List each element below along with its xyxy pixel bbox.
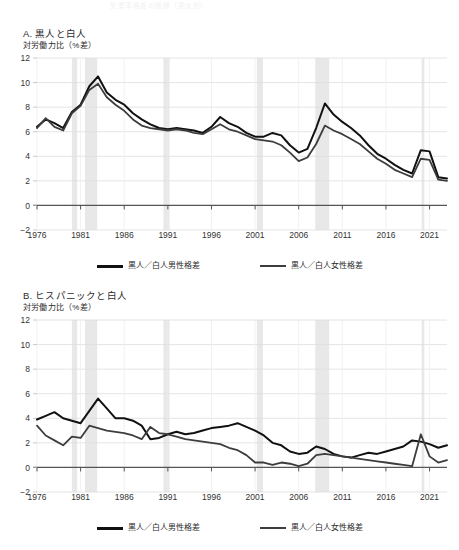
axis-label-y: 0 [25,463,30,473]
axis-label-y: 0 [25,201,30,211]
axis-label-y: 8 [25,364,30,374]
panel-b-svg: −202468101219761981198619911996200120062… [0,314,459,514]
axis-label-x: 2016 [376,492,395,502]
axis-label-x: 2011 [333,492,352,502]
axis-label-x: 1976 [28,492,47,502]
panel-a-svg: −202468101219761981198619911996200120062… [0,52,459,252]
axis-label-x: 1981 [71,492,90,502]
axis-label-x: 2006 [289,492,308,502]
axis-label-x: 1986 [115,230,134,240]
panel-a-plot: −202468101219761981198619911996200120062… [0,52,459,252]
axis-label-y: 2 [25,438,30,448]
panel-b-plot: −202468101219761981198619911996200120062… [0,314,459,514]
legend-label-female: 黒人／白人女性格差 [291,524,363,532]
panel-a-title: A. 黒人と白人 [23,26,86,40]
legend-label-female: 黒人／白人女性格差 [291,262,363,270]
recession-band [85,320,97,492]
legend-swatch-male [97,265,123,268]
recession-band [315,58,329,230]
axis-label-x: 2006 [289,230,308,240]
panel-a-subtitle: 対労働力比（%差） [23,39,96,50]
figure-root: 失業率格差の推移（男女別） A. 黒人と白人 対労働力比（%差） −202468… [0,0,459,550]
recession-band [257,58,263,230]
axis-label-y: 6 [25,389,30,399]
recession-band [163,320,169,492]
axis-label-y: 12 [21,53,31,63]
recession-band [72,320,77,492]
axis-label-x: 1991 [158,492,177,502]
axis-label-x: 2001 [246,230,265,240]
legend-swatch-female [260,265,286,267]
axis-label-y: 12 [21,315,31,325]
recession-band [163,58,169,230]
axis-label-y: 6 [25,127,30,137]
axis-label-x: 2011 [333,230,352,240]
legend-swatch-male [97,527,123,530]
panel-b-legend: 黒人／白人男性格差 黒人／白人女性格差 [0,524,459,532]
legend-swatch-female [260,527,286,529]
legend-item-male: 黒人／白人男性格差 [97,524,200,532]
legend-item-male: 黒人／白人男性格差 [97,262,200,270]
panel-a-legend: 黒人／白人男性格差 黒人／白人女性格差 [0,262,459,270]
axis-label-x: 1976 [28,230,47,240]
panel-b-title: B. ヒスパニックと白人 [23,288,127,302]
axis-label-x: 1986 [115,492,134,502]
axis-label-x: 2021 [420,230,439,240]
axis-label-x: 1991 [158,230,177,240]
axis-label-x: 1996 [202,230,221,240]
panel-b-subtitle: 対労働力比（%差） [23,301,96,312]
legend-item-female: 黒人／白人女性格差 [260,262,363,270]
recession-band [422,58,425,230]
legend-label-male: 黒人／白人男性格差 [128,524,200,532]
recession-band [315,320,329,492]
recession-band [257,320,263,492]
recession-band [72,58,77,230]
axis-label-y: 8 [25,102,30,112]
axis-label-y: 2 [25,176,30,186]
axis-label-y: 4 [25,413,30,423]
axis-label-x: 2021 [420,492,439,502]
legend-item-female: 黒人／白人女性格差 [260,524,363,532]
axis-label-y: 4 [25,151,30,161]
recession-band [422,320,425,492]
data-series-line [37,426,447,467]
data-series-line [37,84,447,181]
axis-label-x: 2001 [246,492,265,502]
axis-label-y: 10 [21,78,31,88]
axis-label-y: 10 [21,340,31,350]
axis-label-x: 1996 [202,492,221,502]
axis-label-x: 2016 [376,230,395,240]
legend-label-male: 黒人／白人男性格差 [128,262,200,270]
axis-label-x: 1981 [71,230,90,240]
figure-header-faint-text: 失業率格差の推移（男女別） [110,0,370,10]
